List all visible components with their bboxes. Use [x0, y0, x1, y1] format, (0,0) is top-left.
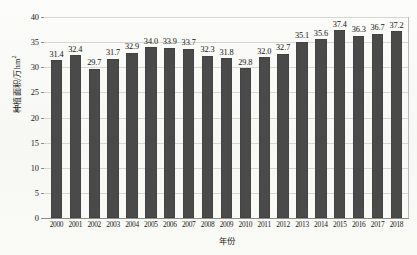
bar[interactable]	[353, 36, 364, 218]
bar-value-label: 36.3	[352, 25, 366, 34]
x-axis-tick-label: 2002	[85, 220, 104, 229]
y-axis-title-superscript: 2	[11, 55, 17, 58]
plot-area: 0510152025303540 31.432.429.731.732.934.…	[44, 17, 409, 218]
bar[interactable]	[372, 34, 383, 218]
bar[interactable]	[126, 53, 137, 218]
bar[interactable]	[277, 54, 288, 218]
bar[interactable]	[183, 49, 194, 218]
bar[interactable]	[334, 30, 345, 218]
bar-slot: 37.2	[387, 17, 406, 218]
bar[interactable]	[259, 57, 270, 218]
bar-slot: 31.7	[104, 17, 123, 218]
bar-slot: 31.4	[47, 17, 66, 218]
x-axis-tick-label: 2005	[141, 220, 160, 229]
bar-slot: 33.9	[160, 17, 179, 218]
bar-value-label: 32.0	[257, 47, 271, 56]
bar-value-label: 29.8	[238, 58, 252, 67]
bar-value-label: 31.4	[49, 50, 63, 59]
bar-slot: 32.9	[123, 17, 142, 218]
x-axis-tick-label: 2001	[66, 220, 85, 229]
x-axis-tick-labels: 2000200120022003200420052006200720082009…	[44, 220, 409, 229]
bar[interactable]	[221, 58, 232, 218]
bar[interactable]	[145, 47, 156, 218]
bar-value-label: 33.7	[182, 38, 196, 47]
y-axis-tick-label: 40	[31, 13, 39, 22]
bar-slot: 37.4	[330, 17, 349, 218]
y-axis-tick-label: 30	[31, 63, 39, 72]
bar-value-label: 34.0	[144, 37, 158, 46]
bar-slot: 32.3	[198, 17, 217, 218]
bar-value-label: 32.7	[276, 43, 290, 52]
y-axis-tick-mark	[41, 218, 44, 219]
x-axis-tick-label: 2015	[330, 220, 349, 229]
bar-slot: 29.8	[236, 17, 255, 218]
x-axis-title: 年份	[44, 234, 409, 246]
bar-slot: 31.8	[217, 17, 236, 218]
bar-value-label: 32.9	[125, 42, 139, 51]
bar[interactable]	[70, 55, 81, 218]
x-axis-tick-label: 2004	[123, 220, 142, 229]
bar-slot: 35.1	[293, 17, 312, 218]
bar-slot: 34.0	[141, 17, 160, 218]
bar-value-label: 32.4	[68, 45, 82, 54]
x-axis-tick-label: 2011	[255, 220, 274, 229]
bar-value-label: 32.3	[201, 45, 215, 54]
y-axis-tick-label: 15	[31, 138, 39, 147]
x-axis-tick-label: 2009	[217, 220, 236, 229]
bar-slot: 32.0	[255, 17, 274, 218]
x-axis-tick-label: 2006	[160, 220, 179, 229]
y-axis-tick-label: 25	[31, 88, 39, 97]
axis-baseline	[44, 218, 409, 219]
bar-value-label: 37.4	[333, 20, 347, 29]
x-axis-tick-label: 2018	[387, 220, 406, 229]
y-axis-title: 种植面积/万hm2	[10, 34, 22, 134]
bar[interactable]	[391, 31, 402, 218]
bar-slot: 33.7	[179, 17, 198, 218]
bar-value-label: 33.9	[163, 37, 177, 46]
x-axis-tick-label: 2017	[368, 220, 387, 229]
x-axis-tick-label: 2013	[293, 220, 312, 229]
y-axis-tick-label: 0	[35, 214, 39, 223]
x-axis-tick-label: 2003	[104, 220, 123, 229]
x-axis-tick-label: 2008	[198, 220, 217, 229]
bar-slot: 36.3	[349, 17, 368, 218]
bar[interactable]	[315, 39, 326, 218]
bar-slot: 35.6	[311, 17, 330, 218]
bars-container: 31.432.429.731.732.934.033.933.732.331.8…	[44, 17, 409, 218]
bar-slot: 32.4	[66, 17, 85, 218]
y-axis-tick-label: 10	[31, 163, 39, 172]
bar[interactable]	[240, 68, 251, 218]
bar-chart: 种植面积/万hm2 0510152025303540 31.432.429.73…	[0, 0, 417, 255]
x-axis-tick-label: 2000	[47, 220, 66, 229]
bar-value-label: 29.7	[87, 58, 101, 67]
bar[interactable]	[89, 69, 100, 218]
x-axis-tick-label: 2012	[274, 220, 293, 229]
y-axis-tick-label: 35	[31, 38, 39, 47]
bar[interactable]	[202, 56, 213, 218]
bar-slot: 36.7	[368, 17, 387, 218]
bar-slot: 29.7	[85, 17, 104, 218]
bar-value-label: 35.1	[295, 31, 309, 40]
x-axis-tick-label: 2010	[236, 220, 255, 229]
bar[interactable]	[296, 42, 307, 218]
bar-value-label: 31.7	[106, 48, 120, 57]
bar[interactable]	[164, 48, 175, 218]
y-axis-tick-label: 5	[35, 188, 39, 197]
bar[interactable]	[107, 59, 118, 218]
x-axis-tick-label: 2016	[349, 220, 368, 229]
bar-value-label: 31.8	[219, 48, 233, 57]
y-axis-tick-label: 20	[31, 113, 39, 122]
x-axis-tick-label: 2007	[179, 220, 198, 229]
bar-value-label: 36.7	[371, 23, 385, 32]
bar-value-label: 35.6	[314, 29, 328, 38]
bar[interactable]	[51, 60, 62, 218]
y-axis-title-text: 种植面积/万hm	[13, 58, 22, 112]
x-axis-tick-label: 2014	[311, 220, 330, 229]
bar-slot: 32.7	[274, 17, 293, 218]
bar-value-label: 37.2	[389, 21, 403, 30]
